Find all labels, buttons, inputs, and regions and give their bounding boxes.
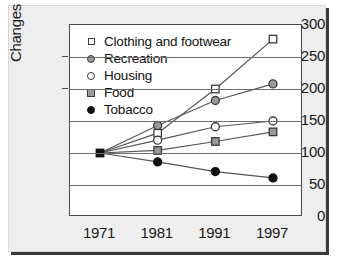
chart-figure: Changes from 1971 Clothing and footwear …: [8, 5, 326, 252]
data-point: [211, 123, 219, 131]
legend-item-housing: Housing: [84, 67, 231, 84]
legend-label: Housing: [104, 68, 152, 83]
data-point: [269, 35, 277, 43]
gridline: [70, 89, 301, 90]
y-tick-mark: [62, 88, 68, 89]
x-tick-label: 1991: [184, 224, 244, 241]
legend-item-recreation: Recreation: [84, 50, 231, 67]
series-line: [100, 132, 273, 153]
gray-circle-icon: [84, 55, 98, 63]
y-tick-label: 50: [279, 176, 325, 191]
y-tick-label: 0: [279, 208, 325, 223]
legend-label: Recreation: [104, 51, 167, 66]
gridline: [70, 185, 301, 186]
y-tick-label: 150: [279, 112, 325, 127]
series-tobacco: [100, 153, 277, 182]
y-tick-label: 100: [279, 144, 325, 159]
data-point: [154, 136, 162, 144]
series-food: [100, 128, 277, 154]
y-tick-label: 200: [279, 80, 325, 95]
legend-label: Clothing and footwear: [104, 34, 231, 49]
gridline: [70, 121, 301, 122]
gridline: [70, 153, 301, 154]
gridline: [70, 57, 301, 58]
legend-item-food: Food: [84, 84, 231, 101]
data-point: [154, 158, 162, 166]
black-circle-icon: [84, 106, 98, 114]
x-tick-label: 1981: [127, 224, 187, 241]
legend-label: Tobacco: [104, 102, 153, 117]
data-point: [269, 80, 277, 88]
y-axis: Changes from 1971: [9, 6, 69, 253]
legend-label: Food: [104, 85, 134, 100]
data-point: [269, 174, 277, 182]
chart-legend: Clothing and footwear Recreation Housing…: [84, 33, 231, 118]
data-point: [269, 128, 277, 136]
y-tick-label: 250: [279, 48, 325, 63]
plot-area: Clothing and footwear Recreation Housing…: [69, 24, 302, 216]
data-point: [212, 138, 220, 146]
series-line: [100, 153, 273, 178]
y-axis-title: Changes from 1971: [7, 0, 24, 62]
open-circle-icon: [84, 72, 98, 80]
series-housing: [100, 117, 277, 153]
series-line: [100, 121, 273, 153]
data-point: [211, 168, 219, 176]
legend-item-tobacco: Tobacco: [84, 101, 231, 118]
open-square-icon: [84, 38, 98, 45]
y-tick-label: 300: [279, 16, 325, 31]
y-tick-mark: [62, 56, 68, 57]
data-point: [154, 121, 162, 129]
legend-item-clothing-and-footwear: Clothing and footwear: [84, 33, 231, 50]
x-tick-label: 1971: [69, 224, 129, 241]
x-tick-label: 1997: [242, 224, 302, 241]
